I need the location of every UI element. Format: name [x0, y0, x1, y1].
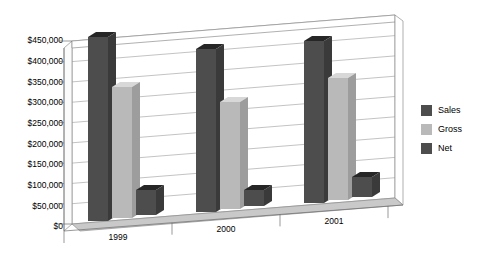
chart-legend: Sales Gross Net — [421, 101, 462, 158]
legend-label-gross: Gross — [438, 124, 462, 135]
legend-item-sales: Sales — [421, 101, 462, 120]
bar-gross-2000 — [220, 97, 248, 209]
bar-gross-2001 — [328, 73, 356, 200]
bar-net-2001 — [352, 172, 380, 197]
legend-swatch-sales — [421, 105, 432, 116]
legend-label-sales: Sales — [438, 105, 461, 116]
legend-swatch-net — [421, 143, 432, 154]
x-tick-label-2000: 2000 — [206, 225, 246, 234]
x-tick-label-1999: 1999 — [98, 233, 138, 242]
bar-net-2000 — [244, 185, 272, 206]
bar-sales-2000 — [196, 44, 224, 212]
right-wall — [395, 15, 403, 205]
legend-swatch-gross — [421, 124, 432, 135]
legend-label-net: Net — [438, 143, 452, 154]
legend-item-net: Net — [421, 139, 462, 158]
bar-net-1999 — [136, 185, 164, 215]
plot-area — [0, 0, 491, 259]
bar-sales-1999 — [88, 32, 116, 221]
bar-gross-1999 — [112, 82, 140, 218]
left-wall — [64, 41, 72, 231]
x-tick-label-2001: 2001 — [314, 217, 354, 226]
bar-sales-2001 — [304, 36, 332, 203]
chart-3d-column: $450,000 $400,000 $350,000 $300,000 $250… — [0, 0, 491, 259]
legend-item-gross: Gross — [421, 120, 462, 139]
